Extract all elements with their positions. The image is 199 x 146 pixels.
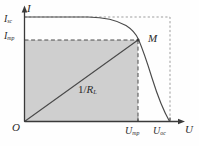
ump-sub: mp — [132, 130, 139, 136]
y-tick-label-imp: Imp — [4, 31, 14, 42]
iv-characteristic-figure: I U O Isc Imp Ump Uoc M 1/RL — [0, 0, 199, 146]
x-axis-label: U — [185, 124, 193, 135]
uoc-sub: oc — [160, 130, 165, 136]
max-power-point-label: M — [148, 33, 157, 44]
origin-label: O — [12, 122, 20, 133]
load-line-prefix: 1/ — [78, 83, 87, 95]
y-axis-label: I — [27, 3, 31, 14]
isc-sub: sc — [7, 18, 12, 24]
chart-canvas — [0, 0, 199, 146]
x-tick-label-uoc: Uoc — [153, 126, 166, 137]
x-axis-arrow-icon — [178, 119, 185, 125]
x-tick-label-ump: Ump — [125, 126, 139, 137]
load-line-label: 1/RL — [78, 84, 97, 96]
load-line-sub: L — [93, 88, 97, 95]
imp-sub: mp — [7, 35, 14, 41]
max-power-point-marker — [137, 39, 140, 42]
y-tick-label-isc: Isc — [4, 14, 12, 25]
